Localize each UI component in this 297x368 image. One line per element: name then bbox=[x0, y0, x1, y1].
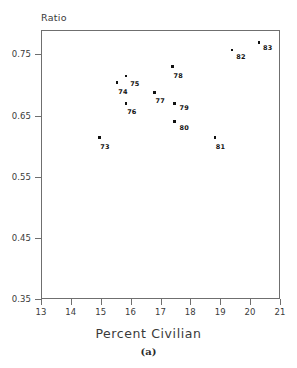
y-tick-mark bbox=[35, 177, 41, 178]
data-point-marker bbox=[171, 65, 174, 68]
data-point-label: 81 bbox=[216, 143, 225, 151]
data-point-label: 74 bbox=[118, 88, 127, 96]
x-tick-mark bbox=[161, 299, 162, 305]
data-point-label: 73 bbox=[100, 143, 109, 151]
data-point-label: 77 bbox=[156, 97, 165, 105]
data-point-label: 82 bbox=[236, 53, 245, 61]
x-tick-label: 15 bbox=[88, 307, 114, 317]
y-tick-label: 0.75 bbox=[1, 49, 31, 59]
plot-frame bbox=[41, 30, 280, 299]
x-tick-mark bbox=[41, 299, 42, 305]
x-tick-label: 14 bbox=[58, 307, 84, 317]
x-tick-label: 17 bbox=[148, 307, 174, 317]
x-axis-title: Percent Civilian bbox=[0, 326, 297, 341]
y-axis-title: Ratio bbox=[41, 12, 67, 23]
scatter-plot-figure: Ratio 0.350.450.550.650.75 1314151617181… bbox=[0, 0, 297, 368]
data-point-label: 83 bbox=[263, 44, 272, 52]
x-tick-label: 18 bbox=[177, 307, 203, 317]
y-tick-label: 0.45 bbox=[1, 233, 31, 243]
x-tick-mark bbox=[280, 299, 281, 305]
data-point-label: 79 bbox=[180, 104, 189, 112]
data-point-marker bbox=[98, 136, 101, 139]
x-tick-label: 19 bbox=[207, 307, 233, 317]
data-point-marker bbox=[153, 91, 156, 94]
x-tick-label: 21 bbox=[267, 307, 293, 317]
data-point-marker bbox=[125, 75, 128, 78]
data-point-marker bbox=[214, 136, 217, 139]
data-point-marker bbox=[173, 120, 176, 123]
data-point-marker bbox=[173, 102, 176, 105]
y-tick-mark bbox=[35, 54, 41, 55]
x-tick-label: 16 bbox=[118, 307, 144, 317]
y-tick-label: 0.65 bbox=[1, 111, 31, 121]
data-point-label: 75 bbox=[130, 80, 139, 88]
x-tick-label: 20 bbox=[237, 307, 263, 317]
panel-label: (a) bbox=[0, 346, 297, 357]
x-tick-mark bbox=[250, 299, 251, 305]
data-point-label: 80 bbox=[180, 124, 189, 132]
x-tick-mark bbox=[101, 299, 102, 305]
data-point-label: 76 bbox=[127, 108, 136, 116]
x-tick-mark bbox=[220, 299, 221, 305]
data-point-marker bbox=[258, 41, 261, 44]
x-tick-label: 13 bbox=[28, 307, 54, 317]
x-tick-mark bbox=[190, 299, 191, 305]
y-tick-mark bbox=[35, 116, 41, 117]
y-tick-mark bbox=[35, 238, 41, 239]
data-point-marker bbox=[116, 81, 119, 84]
x-tick-mark bbox=[71, 299, 72, 305]
y-tick-label: 0.55 bbox=[1, 172, 31, 182]
y-tick-label: 0.35 bbox=[1, 294, 31, 304]
x-tick-mark bbox=[131, 299, 132, 305]
data-point-marker bbox=[231, 49, 234, 52]
data-point-label: 78 bbox=[173, 72, 182, 80]
data-point-marker bbox=[125, 102, 128, 105]
